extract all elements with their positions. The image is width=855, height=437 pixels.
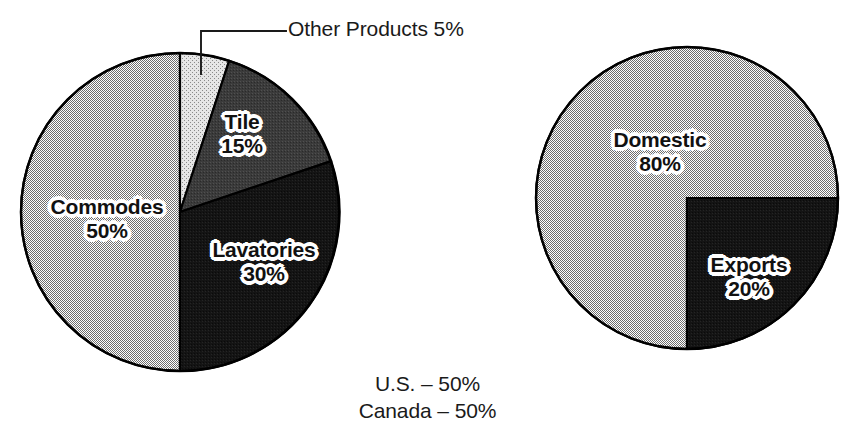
figure-caption: U.S. – 50% Canada – 50% [0,371,855,425]
pie-label-exports-value: 20% [690,277,808,301]
pie-label-commodes-value: 50% [32,219,182,243]
pie-label-tile: Tile 15% [196,110,288,157]
pie-label-lavatories-name: Lavatories [188,238,340,262]
caption-line-us: U.S. – 50% [0,371,855,398]
pie-label-domestic: Domestic 80% [586,128,734,175]
pie-label-commodes-name: Commodes [32,195,182,219]
right-pie-group [536,47,838,349]
caption-line-canada: Canada – 50% [0,398,855,425]
pie-label-lavatories: Lavatories 30% [188,238,340,285]
pie-label-lavatories-value: 30% [188,262,340,286]
pie-label-commodes: Commodes 50% [32,195,182,242]
pie-label-tile-name: Tile [196,110,288,134]
pie-label-domestic-name: Domestic [586,128,734,152]
pie-label-tile-value: 15% [196,134,288,158]
figure-canvas: Other Products 5% Tile 15% Commodes 50% … [0,0,855,437]
pie-label-exports-name: Exports [690,253,808,277]
callout-label-other-products: Other Products 5% [288,17,464,41]
pie-label-domestic-value: 80% [586,152,734,176]
pie-label-exports: Exports 20% [690,253,808,300]
